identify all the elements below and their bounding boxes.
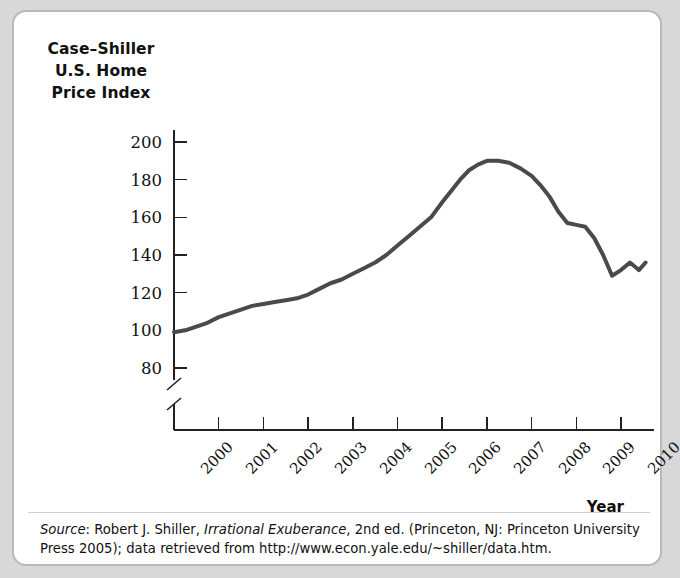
series-line-0 [174, 161, 646, 332]
y-tick-label: 200 [108, 133, 162, 152]
chart-series [174, 161, 646, 332]
source-divider [28, 512, 650, 513]
source-note: Source: Robert J. Shiller, Irrational Ex… [40, 520, 646, 558]
source-label: Source [40, 522, 86, 537]
chart-figure: Case–Shiller U.S. Home Price Index 80100… [14, 12, 660, 512]
source-book-title: Irrational Exuberance [204, 522, 346, 537]
source-separator: : Robert J. Shiller, [86, 522, 204, 537]
figure-page: Case–Shiller U.S. Home Price Index 80100… [0, 0, 680, 578]
y-tick-label: 100 [108, 321, 162, 340]
y-tick-label: 120 [108, 283, 162, 302]
y-tick-label: 80 [108, 359, 162, 378]
y-tick-label: 160 [108, 208, 162, 227]
x-axis-title: Year [587, 498, 624, 516]
y-tick-label: 140 [108, 246, 162, 265]
figure-card: Case–Shiller U.S. Home Price Index 80100… [12, 10, 662, 566]
y-tick-label: 180 [108, 170, 162, 189]
chart-axes [167, 130, 654, 430]
